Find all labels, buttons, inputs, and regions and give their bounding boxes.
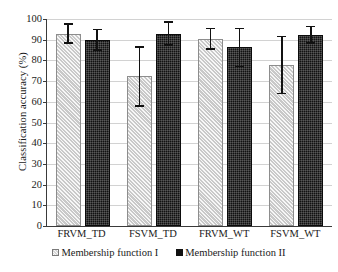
y-axis-tick-label: 80 (12, 55, 42, 65)
error-bar-cap-lower (235, 66, 244, 67)
error-bar-stem (281, 37, 282, 94)
error-bar (56, 24, 81, 226)
legend-swatch-filled-square-icon (176, 249, 183, 256)
error-bar-stem (210, 28, 211, 49)
error-bar-cap-lower (164, 44, 173, 45)
plot-wrapper: Classification accuracy (%) 100908070605… (0, 0, 338, 240)
error-bar-cap-lower (206, 48, 215, 49)
y-axis-tick-label: 90 (12, 35, 42, 45)
y-axis-tick-label: 60 (12, 97, 42, 107)
x-axis-category-labels: FRVM_TDFSVM_TDFRVM_WTFSVM_WT (46, 228, 331, 244)
error-bar-stem (168, 22, 169, 45)
legend-label: Membership function I (61, 247, 158, 258)
error-bar-cap-upper (235, 28, 244, 29)
error-bar-cap-upper (277, 36, 286, 37)
error-bar-stem (96, 29, 97, 50)
error-bar (298, 26, 323, 226)
error-bar (198, 28, 223, 226)
y-axis-tick-label: 0 (12, 221, 42, 231)
y-axis-tick-label: 10 (12, 200, 42, 210)
error-bar-cap-lower (64, 42, 73, 43)
legend-item-membership-function-ii: Membership function II (176, 247, 285, 258)
error-bar (127, 47, 152, 226)
error-bar-cap-upper (93, 29, 102, 30)
error-bar-cap-upper (64, 23, 73, 24)
bar-chart-figure: Classification accuracy (%) 100908070605… (0, 0, 338, 272)
error-bar (227, 28, 252, 226)
error-bar-cap-lower (306, 42, 315, 43)
error-bar-cap-lower (135, 105, 144, 106)
legend-label: Membership function II (185, 247, 285, 258)
error-bar-cap-upper (306, 26, 315, 27)
error-bar-stem (239, 28, 240, 66)
y-axis-tick-label: 50 (12, 118, 42, 128)
error-bar-stem (139, 47, 140, 106)
y-axis-tick-label: 20 (12, 180, 42, 190)
y-axis-tick-label: 70 (12, 76, 42, 86)
error-bar-stem (67, 24, 68, 43)
error-bar-cap-upper (164, 21, 173, 22)
x-axis-category-label: FRVM_WT (189, 228, 260, 239)
y-axis-tick-label: 40 (12, 138, 42, 148)
x-axis-category-label: FRVM_TD (46, 228, 117, 239)
bar-group (47, 19, 118, 226)
y-axis-tick-label: 30 (12, 159, 42, 169)
legend-item-membership-function-i: Membership function I (52, 247, 158, 258)
y-axis-tick-labels: 1009080706050403020100 (12, 13, 42, 227)
bar-group (190, 19, 261, 226)
y-axis-tick-label: 100 (12, 14, 42, 24)
error-bar (85, 29, 110, 226)
error-bar-cap-lower (93, 49, 102, 50)
bar-group (261, 19, 332, 226)
bar-group (118, 19, 189, 226)
error-bar-stem (310, 26, 311, 43)
error-bar (156, 22, 181, 226)
error-bar (269, 37, 294, 226)
error-bar-cap-lower (277, 93, 286, 94)
y-axis-tick (43, 226, 47, 227)
x-axis-category-label: FSVM_TD (117, 228, 188, 239)
error-bar-cap-upper (206, 28, 215, 29)
chart-legend: Membership function I Membership functio… (0, 247, 338, 258)
legend-swatch-hatched-square-icon (52, 249, 59, 256)
error-bar-cap-upper (135, 46, 144, 47)
x-axis-category-label: FSVM_WT (260, 228, 331, 239)
plot-area (46, 19, 332, 227)
